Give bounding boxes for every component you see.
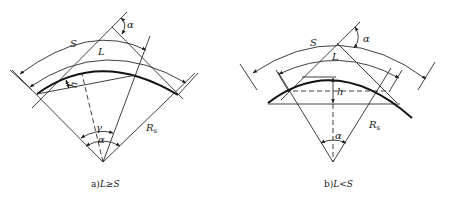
label-s: S bbox=[310, 37, 317, 48]
diagram-a: S L h α γ α Rs a)L≥S bbox=[10, 12, 198, 189]
road-centerline-curve bbox=[37, 71, 178, 95]
label-gamma: γ bbox=[96, 122, 102, 133]
curve-length-arc-l bbox=[279, 60, 399, 78]
caption-b: b)L<S bbox=[324, 179, 353, 189]
label-alpha-top: α bbox=[363, 33, 370, 44]
deflection-angle-arc bbox=[354, 27, 358, 48]
tangent-line-right bbox=[112, 27, 183, 99]
label-alpha-center: α bbox=[98, 134, 105, 145]
figure-canvas: S L h α γ α Rs a)L≥S bbox=[0, 0, 449, 197]
end-tick-s-right bbox=[418, 62, 435, 90]
label-l: L bbox=[331, 51, 339, 62]
sight-line bbox=[103, 36, 150, 162]
caption-a: a)L≥S bbox=[91, 179, 120, 189]
label-h: h bbox=[337, 86, 343, 97]
clearance-dashed-line bbox=[82, 74, 103, 162]
right-radial-line-rs bbox=[103, 73, 195, 162]
label-alpha-top: α bbox=[127, 19, 134, 30]
center-angle-arc bbox=[321, 140, 346, 143]
label-radius: Rs bbox=[368, 119, 381, 132]
label-radius: Rs bbox=[145, 122, 158, 135]
end-tick-right bbox=[178, 73, 198, 95]
label-alpha-center: α bbox=[335, 130, 342, 141]
left-radial-line bbox=[278, 72, 333, 162]
end-tick-l-left bbox=[276, 70, 289, 92]
end-tick-s-left bbox=[240, 64, 257, 90]
label-h: h bbox=[67, 81, 79, 89]
label-l: L bbox=[97, 46, 105, 57]
label-s: S bbox=[70, 38, 77, 49]
deflection-angle-arc bbox=[121, 18, 125, 34]
diagram-b: S L h α α Rs b)L<S bbox=[240, 22, 435, 189]
